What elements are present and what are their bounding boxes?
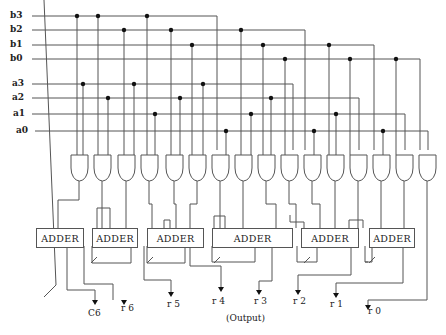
input-label-b1: b1 bbox=[10, 39, 23, 49]
output-label-r6: r 6 bbox=[121, 303, 134, 313]
output-label-r1: r 1 bbox=[330, 299, 343, 309]
input-label-b3: b3 bbox=[10, 10, 23, 20]
adder-4: ADDER bbox=[212, 228, 293, 248]
adder-5: ADDER bbox=[301, 228, 359, 248]
output-label-r2: r 2 bbox=[293, 296, 306, 306]
input-label-a3: a3 bbox=[12, 78, 24, 88]
and-gates bbox=[71, 155, 436, 181]
circuit-wiring bbox=[0, 0, 446, 335]
adder-2: ADDER bbox=[92, 228, 138, 248]
input-label-a0: a0 bbox=[16, 125, 28, 135]
adder-3: ADDER bbox=[147, 228, 204, 248]
multiplier-circuit-diagram: b3 b2 b1 b0 a3 a2 a1 a0 ADDER ADDER ADDE… bbox=[0, 0, 446, 335]
output-label-r5: r 5 bbox=[167, 299, 180, 309]
input-label-a2: a2 bbox=[12, 92, 24, 102]
output-label-r3: r 3 bbox=[254, 296, 267, 306]
adder-6: ADDER bbox=[369, 228, 415, 248]
input-label-b2: b2 bbox=[10, 24, 23, 34]
output-label-c6: C6 bbox=[88, 308, 101, 318]
output-caption: (Output) bbox=[226, 313, 265, 323]
input-label-a1: a1 bbox=[13, 108, 25, 118]
output-label-r0: r 0 bbox=[368, 306, 381, 316]
adder-1: ADDER bbox=[36, 228, 84, 248]
input-label-b0: b0 bbox=[10, 53, 23, 63]
output-label-r4: r 4 bbox=[212, 296, 225, 306]
